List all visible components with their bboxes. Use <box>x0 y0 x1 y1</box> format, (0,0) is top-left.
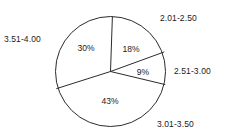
slice-value-3.01-3.50: 43% <box>101 96 118 106</box>
slice-value-3.51-4.00: 30% <box>77 43 94 53</box>
category-label-2.51-3.00: 2.51-3.00 <box>174 66 211 76</box>
category-label-3.51-4.00: 3.51-4.00 <box>4 34 41 44</box>
category-label-3.01-3.50: 3.01-3.50 <box>157 119 194 129</box>
category-label-2.01-2.50: 2.01-2.50 <box>160 13 197 23</box>
slice-value-2.01-2.50: 18% <box>122 44 139 54</box>
slice-value-2.51-3.00: 9% <box>137 67 150 77</box>
pie-chart: 30% 18% 9% 43% 3.51-4.00 2.01-2.50 2.51-… <box>0 0 233 140</box>
